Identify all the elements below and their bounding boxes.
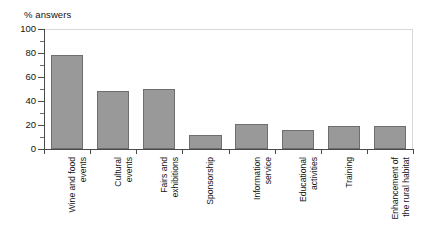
- x-tick-mark: [275, 150, 276, 154]
- x-axis-label-text: Cultural events: [113, 157, 134, 245]
- y-tick-mark-minor: [40, 65, 44, 66]
- x-tick-mark: [136, 150, 137, 154]
- bar: [374, 126, 406, 149]
- y-tick-label-wrap: 40: [0, 96, 36, 106]
- bar: [189, 135, 221, 149]
- y-tick-mark: [38, 77, 44, 78]
- y-tick-label: 0: [2, 144, 36, 154]
- bar: [143, 89, 175, 149]
- x-tick-mark: [229, 150, 230, 154]
- y-tick-label-wrap: 100: [0, 24, 36, 34]
- y-tick-label: 20: [2, 120, 36, 130]
- bar: [97, 91, 129, 149]
- y-tick-mark-minor: [40, 89, 44, 90]
- y-tick-label: 40: [2, 96, 36, 106]
- y-tick-label: 100: [2, 24, 36, 34]
- y-tick-label: 80: [2, 48, 36, 58]
- y-tick-mark: [38, 53, 44, 54]
- y-tick-mark-minor: [40, 137, 44, 138]
- bar: [328, 126, 360, 149]
- x-axis-label-text: Fairs and exhibitions: [159, 157, 180, 245]
- bar: [282, 130, 314, 149]
- y-tick-mark-minor: [40, 41, 44, 42]
- x-tick-mark: [90, 150, 91, 154]
- x-tick-mark: [321, 150, 322, 154]
- x-axis-label-text: Wine and food events: [67, 157, 88, 245]
- y-tick-label-wrap: 0: [0, 144, 36, 154]
- y-axis-title: % answers: [24, 9, 71, 20]
- x-axis-label-text: Sponsorship: [205, 157, 216, 245]
- x-tick-mark: [182, 150, 183, 154]
- y-tick-mark: [38, 125, 44, 126]
- x-axis-label-text: Information service: [252, 157, 273, 245]
- x-tick-mark: [367, 150, 368, 154]
- y-tick-label-wrap: 60: [0, 72, 36, 82]
- bar: [235, 124, 267, 149]
- y-tick-mark-minor: [40, 113, 44, 114]
- y-axis-line: [44, 29, 45, 150]
- x-tick-mark: [44, 150, 45, 154]
- bar-chart: % answers 020406080100 Wine and food eve…: [0, 0, 431, 248]
- x-tick-mark: [413, 150, 414, 154]
- y-tick-label: 60: [2, 72, 36, 82]
- x-axis-label-text: Enhancement of the rural habitat: [390, 157, 411, 245]
- bar: [51, 55, 83, 149]
- y-tick-mark: [38, 29, 44, 30]
- x-axis-label-text: Educational activities: [298, 157, 319, 245]
- x-axis-label-text: Training: [344, 157, 355, 245]
- y-tick-mark: [38, 101, 44, 102]
- y-tick-label-wrap: 80: [0, 48, 36, 58]
- y-tick-label-wrap: 20: [0, 120, 36, 130]
